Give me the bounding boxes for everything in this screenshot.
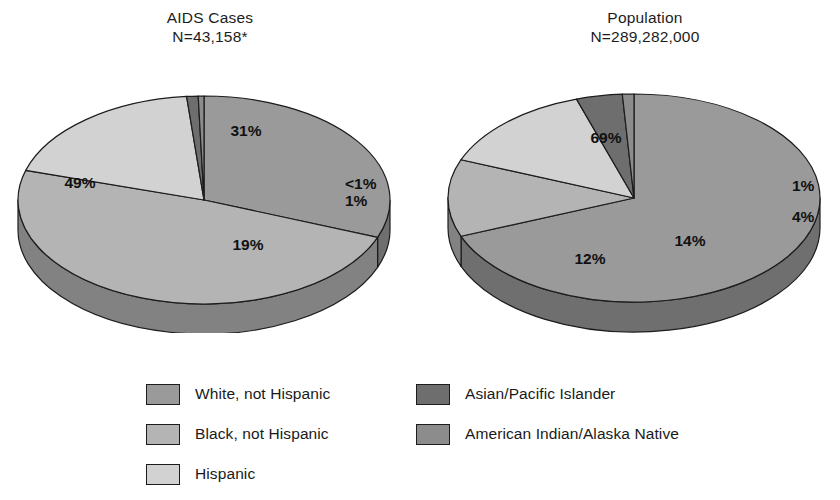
legend-item: Black, not Hispanic bbox=[146, 414, 330, 454]
pie-slice-percent-label: 12% bbox=[574, 250, 605, 267]
chart-title-population: Population N=289,282,000 bbox=[500, 8, 790, 46]
pie-edge-percent-label: 1% bbox=[345, 192, 367, 210]
chart-title-line2: N=43,158* bbox=[70, 27, 350, 46]
legend-color-swatch bbox=[416, 384, 450, 405]
legend-item-label: Hispanic bbox=[195, 465, 255, 483]
legend-item-label: Black, not Hispanic bbox=[195, 425, 329, 443]
legend-item: White, not Hispanic bbox=[146, 374, 330, 414]
pie-slices-aids-cases bbox=[18, 96, 390, 333]
legend-item-label: American Indian/Alaska Native bbox=[465, 425, 679, 443]
legend: White, not HispanicBlack, not HispanicHi… bbox=[146, 374, 826, 494]
legend-item: American Indian/Alaska Native bbox=[416, 414, 679, 454]
figure-canvas: AIDS Cases N=43,158* Population N=289,28… bbox=[0, 0, 840, 500]
legend-color-swatch bbox=[416, 424, 450, 445]
legend-item: Hispanic bbox=[146, 454, 330, 494]
pie-chart-population: 69%12%14% bbox=[438, 68, 838, 333]
legend-item: Asian/Pacific Islander bbox=[416, 374, 679, 414]
pie-slice-percent-label: 49% bbox=[64, 174, 95, 191]
pie-svg-population: 69%12%14% bbox=[438, 68, 838, 333]
pie-edge-percent-label: <1% bbox=[345, 175, 376, 193]
legend-column-1: White, not HispanicBlack, not HispanicHi… bbox=[146, 374, 330, 494]
chart-title-line2: N=289,282,000 bbox=[500, 27, 790, 46]
legend-color-swatch bbox=[146, 384, 180, 405]
pie-slice-percent-label: 69% bbox=[590, 129, 621, 146]
legend-color-swatch bbox=[146, 464, 180, 485]
legend-column-2: Asian/Pacific IslanderAmerican Indian/Al… bbox=[416, 374, 679, 454]
pie-slice-percent-label: 14% bbox=[674, 232, 705, 249]
legend-item-label: Asian/Pacific Islander bbox=[465, 385, 615, 403]
chart-title-line1: Population bbox=[607, 9, 682, 26]
pie-slice-percent-label: 31% bbox=[230, 122, 261, 139]
pie-slice-percent-label: 19% bbox=[232, 236, 263, 253]
pie-slices-population bbox=[448, 94, 820, 332]
pie-edge-percent-label: 4% bbox=[792, 208, 814, 226]
pie-edge-percent-label: 1% bbox=[792, 177, 814, 195]
chart-title-line1: AIDS Cases bbox=[167, 9, 253, 26]
legend-item-label: White, not Hispanic bbox=[195, 385, 330, 403]
chart-title-aids-cases: AIDS Cases N=43,158* bbox=[70, 8, 350, 46]
legend-color-swatch bbox=[146, 424, 180, 445]
